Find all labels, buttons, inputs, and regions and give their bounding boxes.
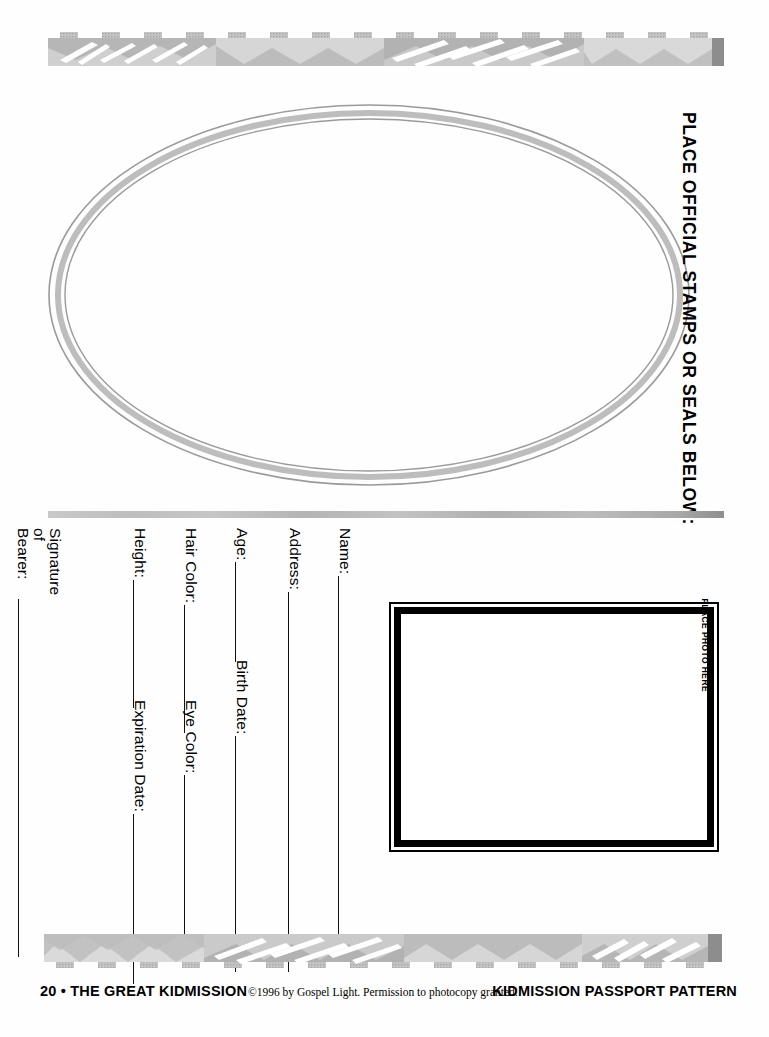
field-name-label: Name: [337, 528, 354, 574]
field-name[interactable]: Name: [337, 528, 354, 956]
field-age[interactable]: Age: [234, 528, 251, 662]
stamps-section-title: PLACE OFFICIAL STAMPS OR SEALS BELOW: [672, 112, 700, 492]
place-photo-here-label: PLACE PHOTO HERE [700, 598, 710, 692]
stamps-oval [44, 100, 694, 490]
section-divider [48, 511, 724, 518]
footer-copyright-text: ©1996 by Gospel Light. Permission to pho… [248, 986, 518, 998]
footer-right-text: KIDMISSION PASSPORT PATTERN [492, 983, 737, 999]
field-age-label: Age: [234, 528, 251, 560]
field-signature-of-bearer[interactable]: Signature of Bearer: [16, 528, 63, 957]
field-height[interactable]: Height: [132, 528, 149, 708]
field-birth-date-label: Birth Date: [234, 660, 251, 734]
bottom-decorative-band [44, 934, 722, 970]
field-age-rule[interactable] [236, 562, 238, 662]
page-footer: 20 • THE GREAT KIDMISSION ©1996 by Gospe… [0, 983, 769, 1005]
field-address-label: Address: [287, 528, 304, 590]
field-signature-of-bearer-label: Signature of Bearer: [16, 528, 63, 597]
field-address-rule[interactable] [289, 592, 291, 972]
field-name-rule[interactable] [339, 576, 341, 956]
field-eye-color-label: Eye Color: [183, 700, 200, 773]
field-eye-color[interactable]: Eye Color: [183, 700, 200, 953]
field-eye-color-rule[interactable] [185, 775, 187, 953]
footer-left-text: 20 • THE GREAT KIDMISSION [40, 983, 247, 999]
field-expiration-date-label: Expiration Date: [132, 700, 149, 812]
field-signature-of-bearer-rule[interactable] [18, 599, 20, 958]
photo-placeholder-box[interactable]: PLACE PHOTO HERE [389, 602, 719, 852]
document-page: PLACE OFFICIAL STAMPS OR SEALS BELOW: PL… [0, 0, 769, 1037]
field-height-rule[interactable] [134, 580, 136, 708]
field-height-label: Height: [132, 528, 149, 578]
field-address[interactable]: Address: [287, 528, 304, 972]
field-birth-date[interactable]: Birth Date: [234, 660, 251, 972]
top-decorative-band [48, 30, 724, 66]
field-hair-color-label: Hair Color: [183, 528, 200, 603]
photo-box-inner-frame: PLACE PHOTO HERE [394, 607, 714, 847]
